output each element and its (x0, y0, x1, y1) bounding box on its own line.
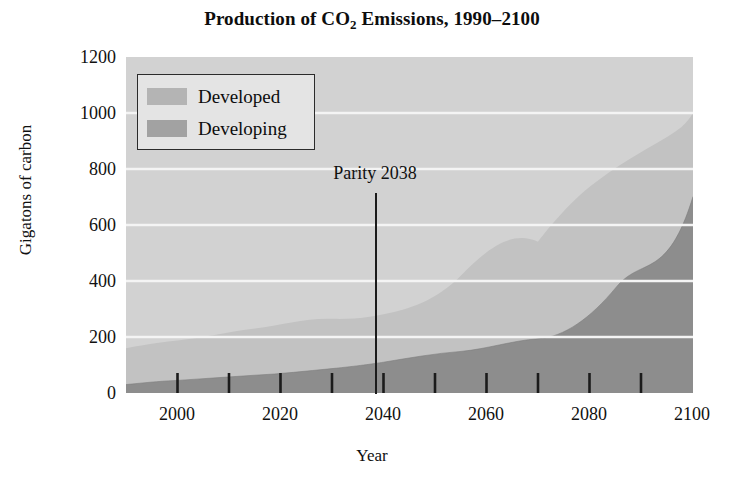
x-tick-label-2040: 2040 (348, 404, 418, 425)
chart-title: Production of CO2 Emissions, 1990–2100 (0, 8, 744, 30)
legend-item-developed: Developed (147, 81, 280, 111)
chart-title-suffix: Emissions, 1990–2100 (357, 8, 540, 29)
x-tick-label-2060: 2060 (451, 404, 521, 425)
y-tick-label-400: 400 (56, 271, 116, 292)
x-axis-title: Year (0, 446, 744, 466)
chart-figure: Production of CO2 Emissions, 1990–2100 G… (0, 0, 744, 493)
y-tick-label-1000: 1000 (56, 103, 116, 124)
y-tick-label-0: 0 (56, 383, 116, 404)
legend-item-developing: Developing (147, 113, 287, 143)
parity-annotation-label: Parity 2038 (305, 163, 445, 184)
legend-swatch-developing (147, 120, 187, 137)
x-tick-label-2080: 2080 (554, 404, 624, 425)
chart-legend: Developed Developing (137, 74, 315, 150)
y-tick-label-600: 600 (56, 215, 116, 236)
x-tick-label-2000: 2000 (142, 404, 212, 425)
x-tick-label-2100: 2100 (657, 404, 727, 425)
x-tick-label-2020: 2020 (245, 404, 315, 425)
legend-label-developed: Developed (198, 87, 280, 106)
legend-label-developing: Developing (198, 119, 287, 138)
y-tick-label-200: 200 (56, 327, 116, 348)
y-tick-label-800: 800 (56, 159, 116, 180)
y-axis-title: Gigatons of carbon (16, 60, 36, 320)
parity-annotation-line (375, 193, 377, 394)
legend-swatch-developed (147, 88, 187, 105)
chart-title-prefix: Production of CO (204, 8, 350, 29)
chart-title-subscript: 2 (350, 17, 357, 32)
y-tick-label-1200: 1200 (56, 47, 116, 68)
